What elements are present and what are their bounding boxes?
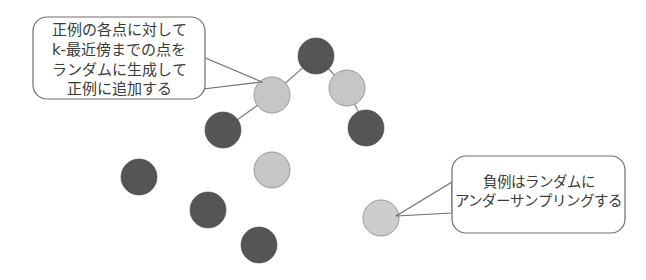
undersampling-negative-callout-bubble bbox=[452, 156, 625, 233]
undersampling-negative-callout-tail bbox=[396, 182, 452, 216]
smote-positive-callout-bubble bbox=[33, 17, 205, 99]
node-negative-lower-right bbox=[363, 200, 399, 236]
node-top-dark bbox=[298, 38, 334, 74]
node-lower-left-dark bbox=[205, 112, 241, 148]
node-positive-upper-right bbox=[329, 70, 365, 106]
node-mid-dark bbox=[190, 192, 226, 228]
smote-positive-callout-tail bbox=[203, 57, 262, 89]
node-positive-middle bbox=[254, 152, 290, 188]
node-bottom-dark bbox=[241, 227, 277, 263]
diagram-svg bbox=[0, 0, 646, 280]
smote-positive-callout bbox=[33, 17, 262, 99]
node-lower-right-dark bbox=[348, 110, 384, 146]
node-left-dark bbox=[121, 159, 157, 195]
undersampling-negative-callout bbox=[396, 156, 625, 233]
diagram-canvas: 正例の各点に対して k-最近傍までの点を ランダムに生成して 正例に追加する 負… bbox=[0, 0, 646, 280]
